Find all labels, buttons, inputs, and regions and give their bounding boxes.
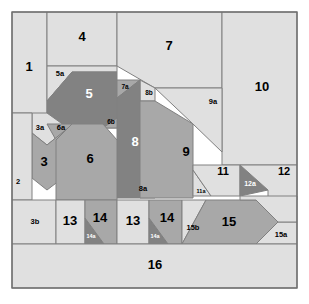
region-label-14a_R: 14a: [150, 233, 160, 239]
region-label-16: 16: [148, 257, 162, 272]
region-label-15b: 15b: [187, 223, 200, 232]
region-label-13L: 13: [63, 213, 77, 228]
region-label-14R: 14: [160, 210, 175, 225]
region-label-2: 2: [16, 177, 20, 186]
region-label-3a: 3a: [36, 123, 45, 132]
region-label-8a: 8a: [139, 184, 148, 193]
region-label-5: 5: [85, 86, 92, 101]
region-label-5a: 5a: [56, 69, 65, 78]
region-label-14a_L: 14a: [86, 233, 96, 239]
region-2: [12, 113, 32, 200]
region-label-15a: 15a: [275, 230, 288, 239]
region-label-11: 11: [217, 165, 229, 177]
region-label-9: 9: [182, 144, 189, 159]
region-label-8b: 8b: [145, 89, 153, 96]
region-label-12a: 12a: [244, 180, 256, 187]
region-label-11a: 11a: [197, 188, 207, 194]
region-label-4: 4: [78, 29, 86, 44]
packing-diagram: 147105a57a8b9a88a96b3a6a3623b1314a141314…: [0, 0, 309, 304]
region-label-14L: 14: [93, 210, 108, 225]
region-label-1: 1: [25, 59, 32, 74]
region-label-9a: 9a: [209, 97, 218, 106]
region-label-3: 3: [40, 154, 47, 169]
region-label-7a: 7a: [121, 83, 129, 90]
region-label-15: 15: [222, 214, 236, 229]
region-label-10: 10: [255, 79, 269, 94]
pieces-layer: [12, 12, 297, 288]
region-label-6b: 6b: [107, 118, 115, 125]
region-label-12: 12: [278, 165, 290, 177]
region-label-7: 7: [165, 38, 172, 53]
region-label-6a: 6a: [57, 123, 66, 132]
region-label-13R: 13: [126, 213, 140, 228]
region-label-3b: 3b: [31, 217, 40, 226]
region-label-8: 8: [131, 134, 138, 149]
region-label-6: 6: [86, 151, 93, 166]
diagram-canvas: 147105a57a8b9a88a96b3a6a3623b1314a141314…: [0, 0, 309, 304]
